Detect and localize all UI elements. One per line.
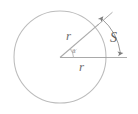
- geometry-figure: r r S a: [0, 0, 138, 114]
- arc-length-label: S: [110, 31, 117, 45]
- figure-canvas: [0, 0, 138, 114]
- extension-tick-top: [98, 12, 113, 25]
- angle-label: a: [72, 47, 76, 55]
- radius-diagonal-label: r: [66, 29, 71, 42]
- radius-horizontal-label: r: [79, 60, 84, 73]
